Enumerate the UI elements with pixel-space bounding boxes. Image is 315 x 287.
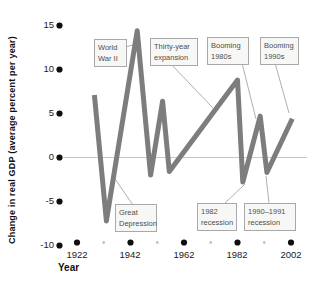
y-axis-title: Change in real GDP (average percent per … <box>7 10 21 270</box>
callout-booming-1990s: Booming 1990s <box>260 37 299 65</box>
x-tick-label-2002: 2002 <box>274 249 308 261</box>
leader-line-booming-1990s <box>275 63 289 113</box>
callout-line: War II <box>98 53 123 64</box>
x-tick-label-1962: 1962 <box>167 249 201 261</box>
callout-line: Thirty-year <box>154 41 194 52</box>
y-axis-tick-dot--10 <box>56 242 62 248</box>
callout-line: Great <box>119 207 153 218</box>
callout-booming-1980s: Booming 1980s <box>207 37 249 65</box>
x-axis-tick-dot-1942 <box>127 239 133 245</box>
y-tick-label-neg5: -5 <box>22 195 54 207</box>
callout-line: Depression <box>119 218 153 229</box>
callout-line: 1990s <box>264 51 295 62</box>
x-axis-tick-dot-2002 <box>288 239 294 245</box>
callout-line: recession <box>201 217 233 228</box>
x-axis-label-year: Year <box>58 262 79 273</box>
y-tick-label-10: 10 <box>22 63 54 75</box>
x-axis-minor-tick-dot-1932 <box>102 241 105 244</box>
y-axis-tick-dot--5 <box>56 198 62 204</box>
callout-line: Booming <box>211 40 245 51</box>
x-tick-label-1922: 1922 <box>60 249 94 261</box>
y-axis-tick-dot-5 <box>56 110 62 116</box>
callout-great-depression: Great Depression <box>115 204 157 232</box>
x-tick-label-1942: 1942 <box>113 249 147 261</box>
x-tick-label-1982: 1982 <box>220 249 254 261</box>
leader-line-thirty-year-expansion <box>170 63 213 108</box>
x-axis-minor-tick-dot-1952 <box>156 241 159 244</box>
callout-line: 1980s <box>211 51 245 62</box>
y-axis-tick-dot-15 <box>56 22 62 28</box>
x-axis-tick-dot-1982 <box>234 239 240 245</box>
leader-line-booming-1980s <box>242 63 256 119</box>
x-axis-tick-dot-1962 <box>181 239 187 245</box>
callout-1990-1991-recession: 1990–1991 recession <box>244 203 296 231</box>
leader-line-recession-1982 <box>225 184 245 203</box>
callout-line: Booming <box>264 40 295 51</box>
y-axis-tick-dot-0 <box>56 154 62 160</box>
y-tick-label-0: 0 <box>22 151 54 163</box>
leader-line-great-depression <box>113 176 133 205</box>
callout-line: World <box>98 42 123 53</box>
y-tick-label-15: 15 <box>22 19 54 31</box>
y-tick-label-5: 5 <box>22 107 54 119</box>
callout-world-war-ii: World War II <box>94 39 127 67</box>
callout-thirty-year-expansion: Thirty-year expansion <box>150 38 198 66</box>
y-axis-tick-dot-10 <box>56 66 62 72</box>
x-axis-minor-tick-dot-1992 <box>263 241 266 244</box>
callout-line: recession <box>248 217 292 228</box>
leader-line-recession-1990-1991 <box>266 176 269 203</box>
callout-line: 1982 <box>201 206 233 217</box>
callout-1982-recession: 1982 recession <box>197 203 237 231</box>
y-tick-label-neg10: -10 <box>22 239 54 251</box>
gdp-growth-figure: Change in real GDP (average percent per … <box>0 0 315 287</box>
x-axis-minor-tick-dot-1972 <box>209 241 212 244</box>
x-axis-tick-dot-1922 <box>74 239 80 245</box>
callout-line: 1990–1991 <box>248 206 292 217</box>
callout-line: expansion <box>154 52 194 63</box>
